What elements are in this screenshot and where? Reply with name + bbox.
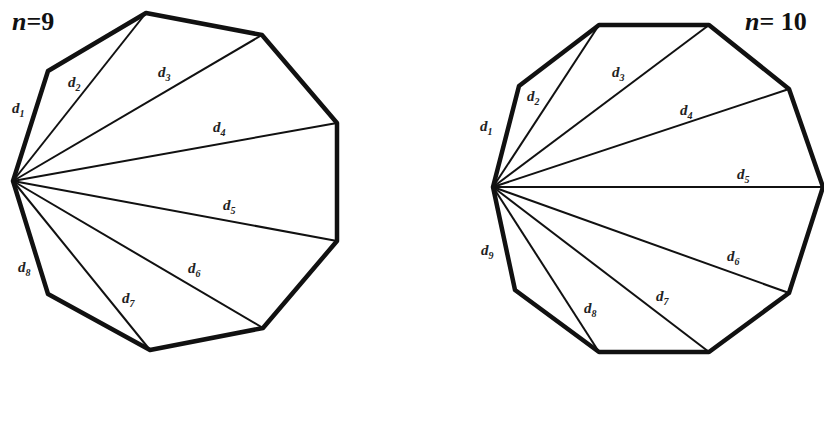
diagonal-label: d2 (527, 88, 540, 107)
nonagon-outline (13, 13, 337, 350)
polygon-diagonals-diagram: d1d2d3d4d5d6d7d8n=9 d1d2d3d4d5d6d7d8d9n=… (0, 0, 824, 429)
figure-title: n=9 (12, 7, 54, 36)
diagonal-label: d3 (158, 64, 171, 83)
diagonal-label: d9 (481, 242, 494, 261)
diagonal-label: d6 (727, 248, 740, 267)
diagonal-label: d1 (12, 100, 25, 119)
diagonal-label: d1 (480, 118, 493, 137)
decagon-figure: d1d2d3d4d5d6d7d8d9n= 10 (480, 7, 823, 352)
diagonal-line (13, 181, 150, 350)
nonagon-figure: d1d2d3d4d5d6d7d8n=9 (12, 7, 337, 350)
diagonal-label: d7 (122, 290, 136, 309)
diagonal-label: d5 (737, 166, 750, 185)
diagonal-line (493, 187, 709, 352)
diagonal-label: d3 (612, 64, 625, 83)
diagonal-line (13, 13, 146, 181)
diagonal-label: d7 (656, 288, 670, 307)
diagonal-label: d8 (584, 300, 597, 319)
diagonal-line (493, 187, 789, 293)
diagonal-line (13, 181, 337, 241)
diagonal-label: d6 (188, 260, 201, 279)
diagonal-label: d5 (223, 197, 236, 216)
diagonal-label: d4 (680, 102, 693, 121)
diagonal-label: d8 (18, 259, 31, 278)
diagonal-line (493, 25, 599, 187)
diagonal-line (493, 25, 709, 187)
diagonal-label: d4 (213, 119, 226, 138)
figure-title: n= 10 (745, 7, 807, 36)
diagonal-label: d2 (68, 74, 81, 93)
